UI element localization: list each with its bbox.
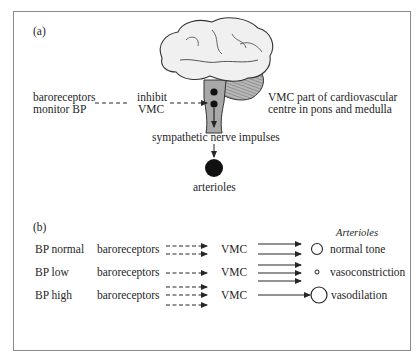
efferent-arrows — [258, 244, 310, 295]
condition-label: BP high — [35, 289, 72, 302]
vmc-label: VMC — [138, 103, 164, 116]
vessel-constricted-icon — [315, 270, 319, 274]
centre-label: VMC — [221, 289, 247, 302]
outcome-label: vasoconstriction — [330, 266, 405, 279]
monitor-bp-label: monitor BP — [33, 103, 86, 116]
panel-b-label: (b) — [33, 221, 46, 234]
source-label: baroreceptors — [97, 266, 160, 279]
vmc-note-line2: centre in pons and medulla — [268, 103, 392, 116]
outcome-label: normal tone — [330, 243, 385, 256]
source-label: baroreceptors — [97, 289, 160, 302]
arterioles-header: Arterioles — [336, 226, 378, 239]
centre-label: VMC — [221, 266, 247, 279]
centre-label: VMC — [221, 243, 247, 256]
condition-label: BP normal — [35, 243, 84, 256]
arterioles-label: arterioles — [193, 181, 236, 194]
vessel-dilated-icon — [311, 287, 327, 303]
outcome-label: vasodilation — [331, 289, 387, 302]
vessel-normal-icon — [312, 244, 323, 255]
brain-icon — [160, 18, 272, 133]
source-label: baroreceptors — [97, 243, 160, 256]
condition-label: BP low — [35, 266, 69, 279]
afferent-arrows — [166, 246, 207, 305]
panel-a-label: (a) — [33, 25, 46, 38]
sympathetic-label: sympathetic nerve impulses — [152, 131, 280, 144]
arteriole-icon — [205, 159, 223, 177]
